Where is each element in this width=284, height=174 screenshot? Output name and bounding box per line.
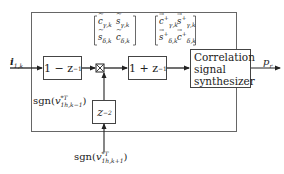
matrix-arrow: →c+γ,k →s+γ,k →s+δ,k →c+δ,k: [159, 14, 195, 46]
diff-block: 1 − z−1: [44, 57, 82, 80]
c-delta-plus: →c+δ,k: [177, 32, 196, 42]
synth-block: Correlation signal synthesizer: [194, 51, 255, 87]
sgn-prev-label: sgn(v*T1h,k−1): [33, 94, 87, 108]
s-delta-plus: →s+δ,k: [159, 32, 178, 42]
sum-block: 1 + z−1: [129, 57, 167, 80]
diagram-canvas: [0, 0, 284, 174]
s-gamma-plus: →s+γ,k: [177, 16, 196, 26]
c-delta-tilde: ~cδ,k: [116, 32, 130, 42]
c-gamma-tilde: ~cγ,k: [98, 16, 112, 26]
c-gamma-plus: →c+γ,k: [159, 16, 178, 26]
output-label: pr: [263, 57, 272, 67]
s-gamma-tilde: ~sγ,k: [116, 16, 130, 26]
s-delta-tilde: ~sδ,k: [98, 32, 112, 42]
input-label: i1,k: [10, 57, 23, 67]
matrix-tilde: ~cγ,k ~sγ,k ~sδ,k ~cδ,k: [98, 14, 134, 46]
sgn-next-label: sgn(v*T1h,k+1): [74, 150, 128, 164]
delay-block: z−2: [93, 101, 116, 124]
